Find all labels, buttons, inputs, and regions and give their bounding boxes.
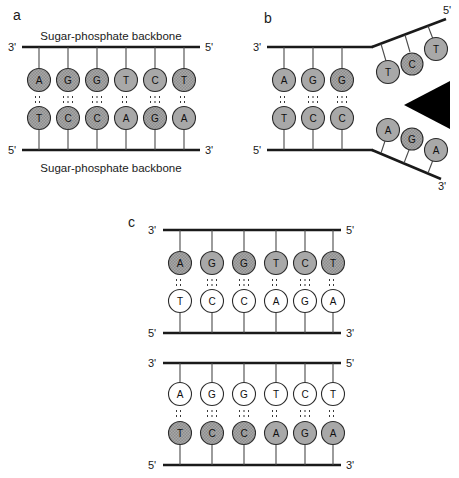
panel-c-d1-pair-6: T A: [322, 230, 345, 333]
panel-a-top-left-end: 3': [8, 41, 16, 53]
panel-a-bottom-base-2-letter: C: [64, 113, 71, 124]
panel-a-bottom-base-5-letter: G: [151, 113, 159, 124]
figure-canvas: a 3' 5' Sugar-phosphate backbone 5' 3' S…: [0, 0, 459, 478]
dna-replication-figure: a 3' 5' Sugar-phosphate backbone 5' 3' S…: [0, 0, 459, 478]
panel-c-d1-bottom-base-2-letter: C: [208, 296, 215, 307]
panel-c-d1-top-base-3-letter: G: [240, 258, 248, 269]
panel-c-d1-pair-4: T A: [265, 230, 288, 333]
panel-a-pair-4: T A: [115, 47, 138, 150]
panel-a-top-base-4-letter: T: [123, 75, 129, 86]
panel-a: a 3' 5' Sugar-phosphate backbone 5' 3' S…: [8, 7, 213, 174]
panel-b-top-unpaired-1: T: [377, 44, 400, 84]
panel-a-bottom-left-end: 5': [8, 144, 16, 156]
panel-c: c 3' 5' 5' 3' A T: [128, 214, 354, 471]
panel-b-bottom-fork-end: 3': [438, 180, 446, 192]
panel-b-pair-2: G C: [302, 47, 325, 150]
panel-b-top-unpaired-base-2-letter: C: [408, 59, 415, 70]
panel-c-d1-pair-2: G C: [201, 230, 224, 333]
panel-b-top-base-2-letter: G: [309, 75, 317, 86]
panel-a-top-base-3-letter: G: [93, 75, 101, 86]
panel-a-pair-3: G C: [86, 47, 109, 150]
panel-a-top-base-2-letter: G: [64, 75, 72, 86]
panel-c-d2-top-base-4-letter: T: [273, 389, 279, 400]
panel-c-d2-top-base-6-letter: T: [330, 389, 336, 400]
panel-b: b 3' 5' 5' 3' A T G: [253, 4, 451, 192]
panel-c-d1-top-base-1-letter: A: [177, 258, 184, 269]
panel-b-label: b: [264, 10, 272, 26]
panel-b-top-unpaired-base-3-letter: T: [433, 44, 439, 55]
panel-c-d1-bottom-base-1-letter: T: [177, 296, 183, 307]
panel-a-bottom-base-4-letter: A: [123, 113, 130, 124]
panel-b-bottom-base-3-letter: C: [338, 113, 345, 124]
panel-b-top-unpaired-2: C: [401, 35, 423, 75]
panel-c-d2-pair-4: T A: [265, 363, 288, 465]
panel-a-label: a: [13, 7, 21, 23]
panel-a-pair-2: G C: [57, 47, 80, 150]
panel-c-d2-pair-5: C G: [294, 363, 317, 465]
panel-c-d2-bottom-base-2-letter: C: [208, 428, 215, 439]
panel-a-top-backbone-label: Sugar-phosphate backbone: [40, 30, 181, 42]
panel-b-top-base-3-letter: G: [338, 75, 346, 86]
panel-b-bottom-unpaired-2: G: [401, 128, 423, 163]
panel-c-d2-bottom-base-1-letter: T: [177, 428, 183, 439]
black-triangle-icon: [404, 81, 450, 129]
panel-c-d2-bottom-right-end: 3': [346, 459, 354, 471]
panel-c-d2-pair-3: G C: [233, 363, 256, 465]
panel-c-d1-pair-3: G C: [233, 230, 256, 333]
panel-c-d2-bottom-base-4-letter: A: [273, 428, 280, 439]
panel-c-d2-pair-2: G C: [201, 363, 224, 465]
panel-c-label: c: [128, 214, 135, 230]
panel-b-top-fork-end: 5': [443, 4, 451, 16]
panel-b-bottom-unpaired-base-3-letter: A: [433, 145, 440, 156]
panel-a-top-base-5-letter: C: [151, 75, 158, 86]
panel-b-top-unpaired-base-1-letter: T: [385, 67, 391, 78]
panel-b-bottom-unpaired-base-2-letter: G: [408, 134, 416, 145]
panel-c-d1-bottom-right-end: 3': [346, 327, 354, 339]
panel-c-d2-top-base-3-letter: G: [240, 389, 248, 400]
panel-c-duplex-1: 3' 5' 5' 3' A T G: [148, 224, 354, 339]
panel-a-bottom-backbone-label: Sugar-phosphate backbone: [40, 162, 181, 174]
panel-c-d1-pair-5: C G: [294, 230, 317, 333]
panel-c-d2-top-base-1-letter: A: [177, 389, 184, 400]
panel-b-top-base-1-letter: A: [281, 75, 288, 86]
panel-c-d1-top-base-4-letter: T: [273, 258, 279, 269]
panel-a-bottom-base-1-letter: T: [36, 113, 42, 124]
panel-a-top-base-1-letter: A: [36, 75, 43, 86]
panel-b-bottom-unpaired-1: A: [377, 119, 400, 154]
panel-c-d1-top-base-5-letter: C: [301, 258, 308, 269]
panel-c-d1-top-right-end: 5': [346, 224, 354, 236]
panel-c-d2-pair-1: A T: [169, 363, 192, 465]
panel-a-bottom-right-end: 3': [205, 144, 213, 156]
panel-c-d2-top-left-end: 3': [148, 357, 156, 369]
panel-a-pair-1: A T: [28, 47, 51, 150]
panel-c-d2-top-base-5-letter: C: [301, 389, 308, 400]
panel-c-d2-top-right-end: 5': [346, 357, 354, 369]
panel-a-top-base-6-letter: T: [181, 75, 187, 86]
panel-c-d1-bottom-base-3-letter: C: [240, 296, 247, 307]
panel-c-d1-pair-1: A T: [169, 230, 192, 333]
panel-b-bottom-base-2-letter: C: [309, 113, 316, 124]
panel-a-top-right-end: 5': [205, 41, 213, 53]
panel-c-d2-bottom-left-end: 5': [148, 459, 156, 471]
panel-b-pair-3: G C: [331, 47, 354, 150]
panel-a-pair-5: C G: [144, 47, 167, 150]
panel-c-d1-top-base-2-letter: G: [208, 258, 216, 269]
panel-b-bottom-unpaired-base-1-letter: A: [385, 125, 392, 136]
panel-c-d1-bottom-base-6-letter: A: [330, 296, 337, 307]
panel-c-d1-bottom-base-4-letter: A: [273, 296, 280, 307]
panel-b-bottom-unpaired-3: A: [425, 139, 448, 174]
panel-c-d1-bottom-left-end: 5': [148, 327, 156, 339]
panel-a-bottom-base-6-letter: A: [181, 113, 188, 124]
panel-c-d2-bottom-base-3-letter: C: [240, 428, 247, 439]
panel-c-d2-pair-6: T A: [322, 363, 345, 465]
panel-c-duplex-2: 3' 5' 5' 3' A T G: [148, 357, 354, 471]
panel-c-d1-top-left-end: 3': [148, 224, 156, 236]
panel-c-d2-top-base-2-letter: G: [208, 389, 216, 400]
panel-c-d1-bottom-base-5-letter: G: [301, 296, 309, 307]
panel-a-pair-6: T A: [173, 47, 196, 150]
panel-a-bottom-base-3-letter: C: [93, 113, 100, 124]
panel-b-top-unpaired-3: T: [425, 26, 448, 61]
panel-b-bottom-left-end: 5': [253, 144, 261, 156]
panel-c-d2-bottom-base-6-letter: A: [330, 428, 337, 439]
panel-b-pair-1: A T: [273, 47, 296, 150]
